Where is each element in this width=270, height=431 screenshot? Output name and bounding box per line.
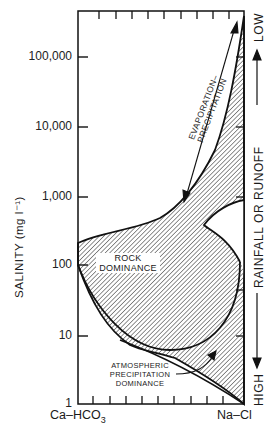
top-axis-ticks	[99, 11, 229, 19]
atm-label-line1: ATMOSPHERIC	[98, 361, 182, 370]
x-left-subscript: 3	[101, 415, 106, 425]
x-axis-right-label: Na–Cl	[217, 408, 252, 422]
atmospheric-precipitation-label: ATMOSPHERIC PRECIPITATION DOMINANCE	[98, 361, 182, 388]
atm-label-line2: PRECIPITATION	[98, 370, 182, 379]
rock-dominance-label: ROCK DOMINANCE	[96, 253, 160, 273]
atm-label-line3: DOMINANCE	[98, 379, 182, 388]
x-axis-left-label: Ca–HCO3	[50, 408, 106, 425]
rock-label-line2: DOMINANCE	[96, 263, 160, 273]
ytick-10: 10	[12, 328, 72, 342]
ytick-100000: 100,000	[12, 49, 72, 63]
bottom-axis-ticks	[93, 396, 223, 404]
ytick-10000: 10,000	[12, 119, 72, 133]
y-axis-title: SALINITY (mg l⁻¹)	[12, 192, 26, 302]
x-left-text: Ca–HCO	[50, 408, 101, 422]
right-axis-high-label: HIGH	[252, 374, 266, 406]
rock-label-line1: ROCK	[96, 253, 160, 263]
right-axis-middle-label: RAINFALL OR RUNOFF	[252, 146, 266, 288]
right-axis-low-label: LOW	[252, 13, 266, 42]
y-axis-ticks	[78, 57, 88, 336]
